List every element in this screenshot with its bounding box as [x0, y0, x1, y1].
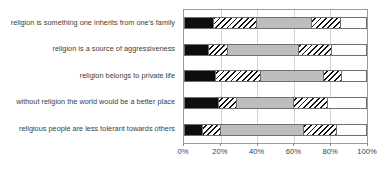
x-axis-tick: [330, 143, 331, 146]
x-axis-tick: [257, 143, 258, 146]
category-axis-labels: religion is something one inherits from …: [0, 9, 179, 142]
bar-rows: [184, 10, 367, 143]
stacked-bar: [184, 124, 367, 136]
bar-segment: [294, 98, 328, 108]
bar-segment: [214, 18, 257, 28]
x-axis-tick-label: 60%: [286, 147, 301, 157]
bar-segment: [312, 18, 341, 28]
category-label: religion is something one inherits from …: [0, 9, 179, 36]
category-label: religious people are less tolerant towar…: [0, 115, 179, 142]
x-axis: 0%20%40%60%80%100%: [183, 143, 367, 165]
bar-segment: [299, 45, 332, 55]
stacked-bar: [184, 17, 367, 29]
bar-segment: [304, 125, 337, 135]
x-axis-tick: [183, 143, 184, 146]
bar-segment: [328, 98, 366, 108]
table-row: [184, 90, 367, 117]
category-label: religion is a source of aggressiveness: [0, 36, 179, 63]
table-row: [184, 10, 367, 37]
bar-segment: [185, 125, 203, 135]
category-label: religion belongs to private life: [0, 62, 179, 89]
table-row: [184, 37, 367, 64]
bar-segment: [209, 45, 229, 55]
x-axis-tick-label: 40%: [249, 147, 264, 157]
bar-segment: [237, 98, 293, 108]
bar-segment: [185, 45, 209, 55]
x-axis-tick: [220, 143, 221, 146]
bar-segment: [185, 98, 219, 108]
bar-segment: [219, 98, 237, 108]
bar-segment: [185, 71, 216, 81]
x-axis-tick-label: 100%: [357, 147, 376, 157]
bar-segment: [324, 71, 342, 81]
stacked-bar: [184, 70, 367, 82]
bar-segment: [337, 125, 366, 135]
bar-segment: [342, 71, 366, 81]
x-axis-tick-label: 0%: [178, 147, 189, 157]
bar-segment: [228, 45, 299, 55]
x-axis-tick-label: 20%: [212, 147, 227, 157]
bar-segment: [341, 18, 366, 28]
bar-segment: [257, 18, 311, 28]
table-row: [184, 63, 367, 90]
plot-area: [183, 9, 368, 144]
bar-segment: [261, 71, 324, 81]
stacked-bar: [184, 97, 367, 109]
bar-segment: [221, 125, 304, 135]
x-axis-tick-label: 80%: [323, 147, 338, 157]
bar-segment: [216, 71, 261, 81]
stacked-bar: [184, 44, 367, 56]
category-label: without religion the world would be a be…: [0, 89, 179, 116]
bar-segment: [332, 45, 366, 55]
bar-segment: [185, 18, 214, 28]
x-axis-tick: [367, 143, 368, 146]
table-row: [184, 116, 367, 143]
bar-segment: [203, 125, 221, 135]
x-axis-tick: [293, 143, 294, 146]
